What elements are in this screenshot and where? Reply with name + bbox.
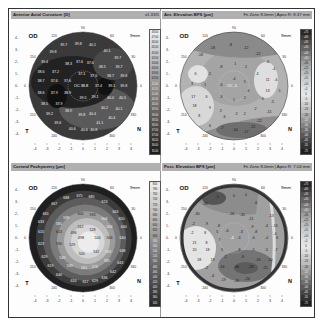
x-tick-label: -2	[208, 147, 211, 151]
map-value: -4	[232, 77, 235, 81]
map-value: -46	[234, 265, 239, 269]
scale-step: 340	[150, 301, 160, 306]
y-tick-label: 0-	[15, 236, 18, 240]
y-tick-label: 3-	[15, 48, 18, 52]
x-tick-label: 1	[245, 299, 247, 303]
panel-header: Anterior Axial Curvature [D]x1.33/5	[11, 11, 161, 19]
map-value: -13	[269, 214, 274, 218]
map-value: 576	[92, 265, 98, 269]
x-tick-label: 4	[130, 147, 132, 151]
map-value: 39.5	[80, 96, 87, 100]
angle-label: 30	[131, 55, 135, 59]
angle-label: 330	[281, 265, 287, 269]
y-tick-label: 0-	[15, 84, 18, 88]
map-value: 1	[204, 83, 206, 87]
x-tick-label: 4	[281, 147, 283, 151]
map-value: 38.6	[38, 91, 45, 95]
angle-label: 300	[260, 286, 266, 290]
map-value: 6	[209, 124, 211, 128]
angle-label: 330	[130, 113, 136, 117]
map-value: 532	[93, 250, 99, 254]
map-value: -9	[205, 222, 208, 226]
map-value: 6	[195, 72, 197, 76]
panel-title: Anterior Axial Curvature [D]	[13, 11, 70, 19]
map-value: 5	[244, 80, 246, 84]
map-value: 496	[70, 231, 76, 235]
posterior-elevation-map[interactable]: -500-39-6-30-26-31-21-13-2-9-8-9-4-13-28…	[162, 173, 302, 313]
map-value: -4	[211, 274, 214, 278]
x-tick-label: 4	[130, 299, 132, 303]
panel-header: Post. Elevation BFS [µm]Fit Zone 8.0mm |…	[162, 163, 312, 171]
map-value: 9	[209, 106, 211, 110]
map-value: 40.0	[107, 96, 114, 100]
map-value: -8	[241, 255, 244, 259]
x-tick-label: -1	[69, 147, 72, 151]
angle-label: 120	[51, 34, 57, 38]
angle-label: 240	[51, 134, 57, 138]
map-value: -31	[240, 213, 245, 217]
y-tick-label: 4-	[166, 36, 169, 40]
angle-label: 0	[291, 84, 293, 88]
scale-step: -75	[301, 301, 311, 306]
map-value: -2	[205, 266, 208, 270]
map-value: 590	[56, 242, 62, 246]
map-value: 643	[117, 261, 123, 265]
x-tick-label: -3	[196, 299, 199, 303]
y-tick-label: 3-	[166, 48, 169, 52]
map-value: 39.2	[46, 112, 53, 116]
map-value: 37.2	[52, 70, 59, 74]
map-value: 1	[233, 98, 235, 102]
panel-posterior-elevation[interactable]: Post. Elevation BFS [µm]Fit Zone 8.0mm |…	[162, 163, 312, 313]
panel-info: Fit Zone 8.0mm | Apex R: 7.04 mm	[243, 163, 310, 171]
y-tick-label: -3-	[166, 120, 170, 124]
map-value: -12	[243, 46, 248, 50]
angle-label: 30	[131, 207, 135, 211]
x-tick-label: 3	[118, 147, 120, 151]
x-tick-label: -4	[184, 299, 187, 303]
map-value: 5	[221, 248, 223, 252]
nasal-label: N	[288, 278, 292, 284]
map-value: 8	[204, 231, 206, 235]
map-value: 40.2	[101, 106, 108, 110]
map-value: 648	[120, 249, 126, 253]
x-tick-label: 2	[106, 299, 108, 303]
center-value: 498	[78, 236, 84, 240]
map-value: 39.4	[41, 60, 48, 64]
y-tick-label: -1-	[15, 96, 19, 100]
anterior-elevation-map[interactable]: -18-8-12-12-18-6-812-4-462-4511-631-6413…	[162, 21, 302, 161]
y-tick-label: 1-	[15, 72, 18, 76]
y-tick-label: -2-	[166, 260, 170, 264]
map-value: 40.1	[104, 49, 111, 53]
map-value: 39.8	[75, 42, 82, 46]
map-value: 22	[251, 125, 255, 129]
pachymetry-map[interactable]: 6886756856746676636615986005946046506335…	[11, 173, 151, 313]
panel-anterior-axial-curvature[interactable]: Anterior Axial Curvature [D]x1.33/5 39.7…	[11, 11, 161, 161]
x-tick-label: -2	[57, 299, 60, 303]
x-tick-label: 1	[94, 299, 96, 303]
map-value: -26	[248, 265, 253, 269]
map-value: 5	[279, 89, 281, 93]
y-tick-label: -1-	[166, 248, 170, 252]
angle-label: 0	[175, 84, 177, 88]
map-value: 2	[244, 96, 246, 100]
map-value: -6	[254, 201, 257, 205]
angle-label: 120	[202, 186, 208, 190]
map-value: 675	[76, 194, 82, 198]
map-value: 39.8	[120, 74, 127, 78]
map-value: -21	[248, 217, 253, 221]
center-value: OC 38.8	[74, 84, 88, 88]
angle-label: 210	[181, 265, 187, 269]
color-scale-bar: 48.0047.0046.0045.5045.0044.5044.0043.50…	[149, 29, 161, 155]
map-value: 613	[56, 230, 62, 234]
axial-curvature-map[interactable]: 39.739.840.139.840.139.739.438.337.637.6…	[11, 21, 151, 161]
panel-corneal-pachymetry[interactable]: Corneal Pachymetry [µm] 6886756856746676…	[11, 163, 161, 313]
map-value: 39.8	[50, 50, 57, 54]
map-value: 549	[60, 256, 66, 260]
y-tick-label: -2-	[15, 260, 19, 264]
panel-anterior-elevation[interactable]: Ant. Elevation BFS [µm]Fit Zone 8.0mm | …	[162, 11, 312, 161]
map-value: -8	[254, 230, 257, 234]
map-value: 6	[205, 95, 207, 99]
map-value: 38.5	[99, 65, 106, 69]
map-value: 650	[118, 217, 124, 221]
angle-label: 60	[261, 34, 265, 38]
